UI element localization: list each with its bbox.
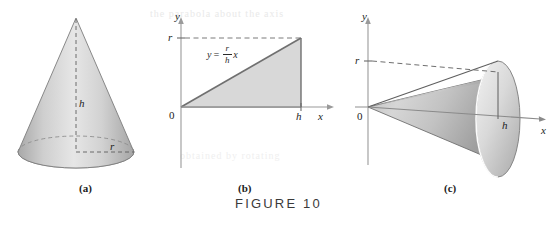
panel-c-x-axis-arrowhead	[539, 116, 546, 122]
panel-c-drawing	[350, 0, 557, 190]
panel-c-cone-revolution: y x 0 r h	[350, 0, 557, 190]
panel-b-sublabel: (b)	[238, 182, 251, 194]
panel-b-origin-label: 0	[169, 109, 175, 121]
panel-b-triangle-region: y x 0 r h y = r h x	[160, 0, 350, 190]
equation-denominator: h	[225, 55, 230, 65]
panel-c-label-h: h	[502, 119, 508, 131]
panel-c-sublabel: (c)	[444, 182, 456, 194]
panel-c-x-axis-label: x	[541, 124, 546, 136]
label-height-h: h	[79, 97, 85, 109]
panel-a-sublabel: (a)	[79, 182, 92, 194]
equation-variable: x	[233, 49, 237, 60]
figure-caption: FIGURE 10	[0, 196, 557, 211]
x-axis-arrowhead	[327, 104, 334, 110]
panel-c-y-axis-label: y	[362, 10, 367, 22]
equation-fraction: r h	[223, 44, 232, 65]
panel-c-y-tick-label-r: r	[355, 54, 359, 66]
panel-b-y-axis-label: y	[175, 10, 180, 22]
equation-numerator: r	[225, 44, 229, 54]
panel-c-origin-label: 0	[357, 110, 363, 122]
panel-b-x-axis-label: x	[318, 110, 323, 122]
panel-b-y-tick-label-r: r	[168, 31, 172, 43]
equation-operator: =	[213, 49, 220, 60]
panel-c-guide-dashed-r	[372, 61, 498, 72]
figure-10: the parabola about the axis obtained by …	[0, 0, 557, 228]
panel-b-x-tick-label-h: h	[296, 110, 302, 122]
label-radius-r: r	[110, 140, 114, 152]
equation-line: y = r h x	[207, 44, 238, 65]
equation-lhs: y	[207, 49, 211, 60]
panel-b-drawing	[160, 0, 350, 190]
